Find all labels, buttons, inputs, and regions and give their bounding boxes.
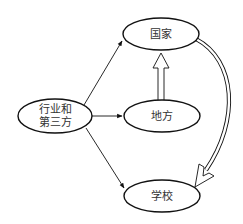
node-national-label: 国家	[150, 27, 172, 41]
edge-local-to-national	[153, 53, 169, 100]
node-school-label: 学校	[151, 189, 173, 203]
edge-industry-to-national	[84, 41, 122, 105]
node-industry-label-line2: 第三方	[39, 115, 72, 129]
node-industry-label-line1: 行业和	[39, 103, 72, 116]
flow-diagram: 行业和 第三方 国家 地方 学校	[0, 0, 243, 224]
edge-industry-to-school	[86, 128, 124, 188]
node-national[interactable]: 国家	[123, 18, 199, 50]
node-local[interactable]: 地方	[124, 100, 200, 132]
node-school[interactable]: 学校	[124, 180, 200, 212]
node-industry-third-party[interactable]: 行业和 第三方	[18, 99, 92, 133]
node-local-label: 地方	[151, 109, 173, 123]
